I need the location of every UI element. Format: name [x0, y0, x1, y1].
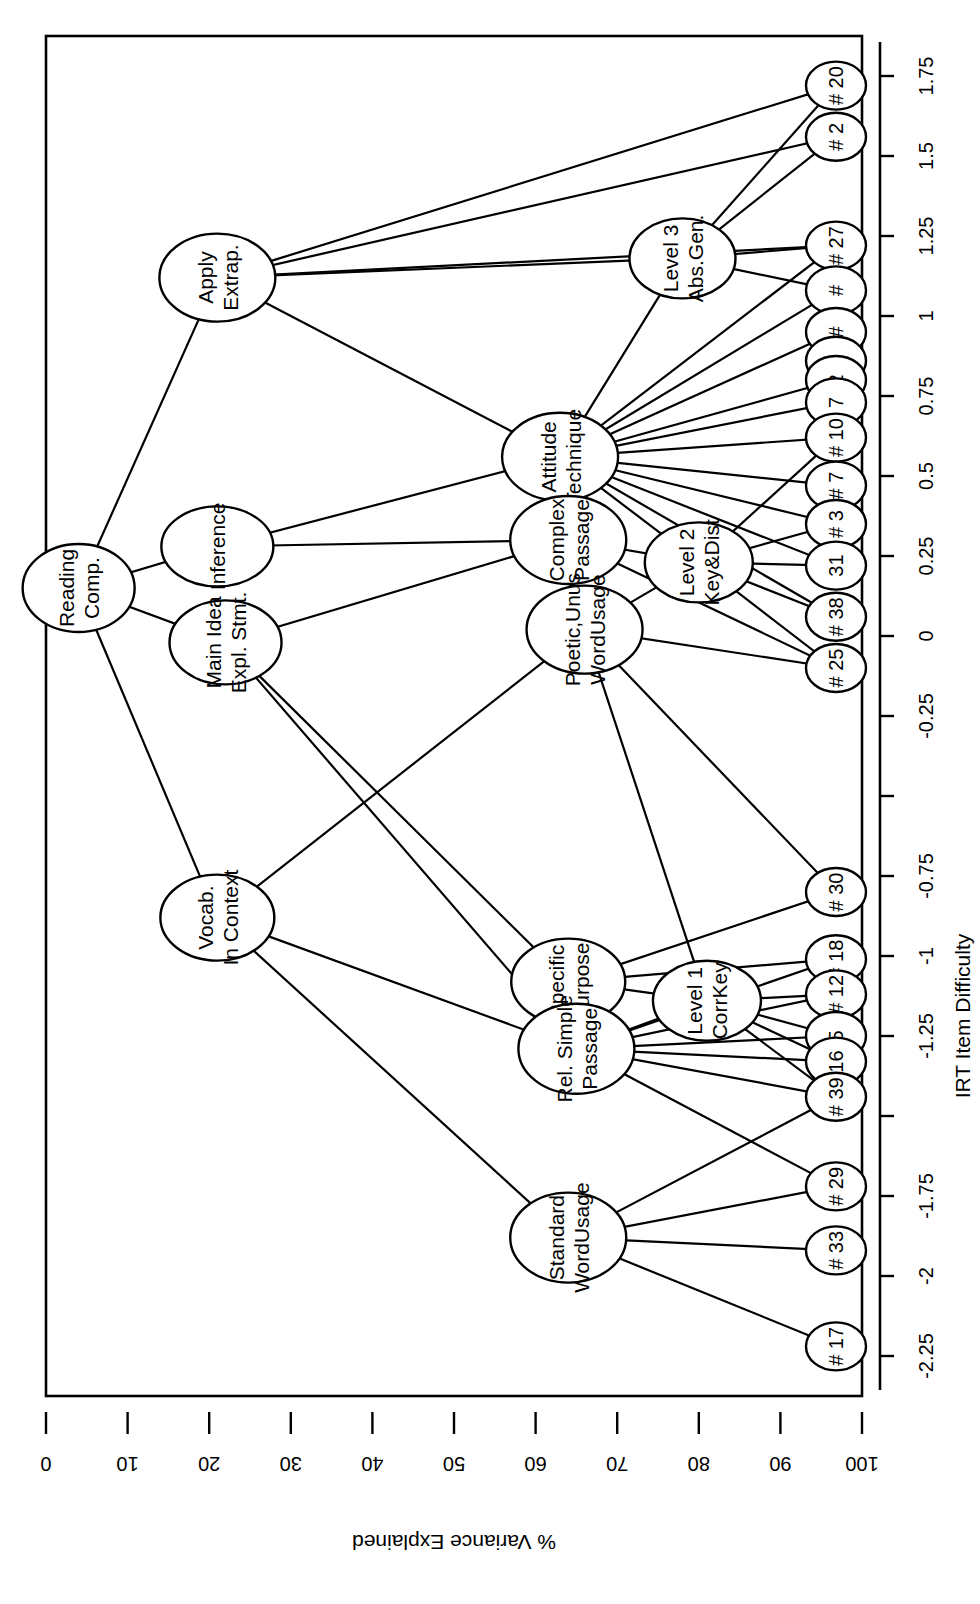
- node-ellipse-relsimple: [518, 1004, 634, 1094]
- node-label-stdword: Standard: [545, 1195, 568, 1280]
- node-label-attitude: Attitude: [537, 421, 560, 492]
- node-label-inference: Inference: [206, 503, 229, 591]
- node-label-level2: Key&Dist: [700, 519, 723, 606]
- variance-axis-tick-label: 70: [606, 1453, 628, 1475]
- variance-axis-tick-label: 40: [361, 1453, 383, 1475]
- item-label-i12: # 12: [825, 975, 847, 1014]
- irt-axis-tick-label: 0.5: [915, 462, 937, 490]
- irt-axis-tick-label: -1: [915, 947, 937, 965]
- node-label-level1: CorrKey: [708, 962, 731, 1040]
- irt-axis-tick-label: 1: [915, 310, 937, 321]
- node-level1: Level 1CorrKey: [653, 961, 761, 1041]
- irt-axis-tick-label: -1.25: [915, 1013, 937, 1059]
- variance-axis-tick-label: 20: [198, 1453, 220, 1475]
- item-node-layer: # 20# 2# 27###27# 10# 7# 331# 38# 25# 30…: [806, 62, 866, 1371]
- item-node-i20: # 20: [806, 62, 866, 110]
- node-root: ReadingComp.: [23, 544, 135, 632]
- item-node-i27: # 27: [806, 222, 866, 270]
- item-node-i39: # 39: [806, 1073, 866, 1121]
- node-label-relsimple: Rel. Simple: [553, 995, 576, 1102]
- variance-axis-tick-label: 80: [688, 1453, 710, 1475]
- node-ellipse-complexpass: [510, 496, 626, 584]
- item-label-i33: # 33: [825, 1231, 847, 1270]
- node-label-level3: Level 3: [659, 225, 682, 293]
- plot-frame: [46, 36, 862, 1396]
- irt-axis-title: IRT Item Difficulty: [951, 933, 974, 1098]
- node-label-mainidea: Expl. Stmt.: [227, 592, 250, 694]
- item-label-i31: 31: [825, 554, 847, 576]
- item-label-i38: # 38: [825, 597, 847, 636]
- node-inference: Inference: [161, 503, 273, 591]
- node-attitude: AttitudeTechnique: [502, 409, 618, 505]
- item-node-i31: 31: [806, 542, 866, 590]
- node-label-relsimple: Passage: [578, 1008, 601, 1090]
- irt-axis-tick-label: 0.75: [915, 377, 937, 416]
- variance-axis-tick-label: 0: [40, 1453, 51, 1475]
- node-label-poetic: WordUsage: [586, 574, 609, 685]
- node-label-poetic: Poetic,Unus: [561, 573, 584, 686]
- irt-axis-tick-label: -0.75: [915, 853, 937, 899]
- item-label-i3: # 3: [825, 510, 847, 538]
- edge-poetic-i30: [585, 630, 836, 892]
- edge-vocab-poetic: [217, 630, 584, 918]
- variance-axis-title: % Variance Explained: [352, 1531, 556, 1554]
- variance-axis-tick-label: 50: [443, 1453, 465, 1475]
- irt-axis-tick-label: 0.25: [915, 537, 937, 576]
- node-ellipse-level2: [645, 522, 753, 602]
- edge-apply-i2: [217, 137, 836, 278]
- node-apply: ApplyExtrap.: [159, 234, 275, 322]
- node-ellipse-level1: [653, 961, 761, 1041]
- node-label-attitude: Technique: [562, 409, 585, 505]
- node-ellipse-poetic: [527, 586, 643, 674]
- irt-axis-tick-label: 1.75: [915, 57, 937, 96]
- item-node-i17: # 17: [806, 1322, 866, 1370]
- node-stdword: StandardWordUsage: [510, 1182, 626, 1293]
- node-ellipse-attitude: [502, 413, 618, 501]
- node-ellipse-mainidea: [170, 600, 282, 684]
- item-node-i2: # 2: [806, 113, 866, 161]
- hierarchical-variance-diagram: ReadingComp.ApplyExtrap.InferenceMain Id…: [0, 0, 980, 1604]
- node-label-root: Reading: [55, 549, 78, 627]
- node-label-level3: Abs.Gen.: [684, 215, 707, 303]
- item-label-i25: # 25: [825, 649, 847, 688]
- item-label-i20: # 20: [825, 66, 847, 105]
- item-label-i16: 16: [825, 1050, 847, 1072]
- node-ellipse-stdword: [510, 1193, 626, 1283]
- item-node-i33: # 33: [806, 1226, 866, 1274]
- item-node-i38: # 38: [806, 593, 866, 641]
- node-label-apply: Extrap.: [219, 244, 242, 311]
- irt-axis-tick-label: 1.5: [915, 142, 937, 170]
- irt-axis-tick-label: 1.25: [915, 217, 937, 256]
- node-label-vocab: In Context: [219, 870, 242, 966]
- item-node-i29: # 29: [806, 1162, 866, 1210]
- figure-canvas: ReadingComp.ApplyExtrap.InferenceMain Id…: [0, 0, 980, 1604]
- node-ellipse-root: [23, 544, 135, 632]
- item-label-i17: # 17: [825, 1327, 847, 1366]
- item-node-i25: # 25: [806, 644, 866, 692]
- edge-apply-attitude: [217, 278, 560, 457]
- node-label-root: Comp.: [80, 557, 103, 619]
- item-label-i7b: 7: [825, 397, 847, 408]
- node-label-level1: Level 1: [683, 967, 706, 1035]
- edge-mainidea-specpurp: [226, 642, 569, 981]
- irt-axis-tick-label: 0: [915, 630, 937, 641]
- node-ellipse-level3: [629, 218, 735, 298]
- node-label-complexpass: Passage: [570, 499, 593, 581]
- node-mainidea: Main IdeaExpl. Stmt.: [170, 592, 282, 694]
- item-node-i10: # 10: [806, 414, 866, 462]
- node-label-stdword: WordUsage: [570, 1182, 593, 1293]
- node-label-complexpass: Complex: [545, 498, 568, 581]
- item-label-ix1: #: [825, 284, 847, 296]
- item-label-i27: # 27: [825, 226, 847, 265]
- variance-axis-tick-label: 100: [845, 1453, 878, 1475]
- irt-axis-tick-label: -2: [915, 1267, 937, 1285]
- item-label-i10: # 10: [825, 418, 847, 457]
- node-label-vocab: Vocab.: [194, 885, 217, 949]
- node-poetic: Poetic,UnusWordUsage: [527, 573, 643, 686]
- node-ellipse-vocab: [160, 875, 274, 961]
- item-label-i39: # 39: [825, 1077, 847, 1116]
- plot-border: [46, 36, 862, 1396]
- irt-axis-tick-label: -2.25: [915, 1333, 937, 1379]
- variance-axis-tick-label: 90: [769, 1453, 791, 1475]
- node-ellipse-apply: [159, 234, 275, 322]
